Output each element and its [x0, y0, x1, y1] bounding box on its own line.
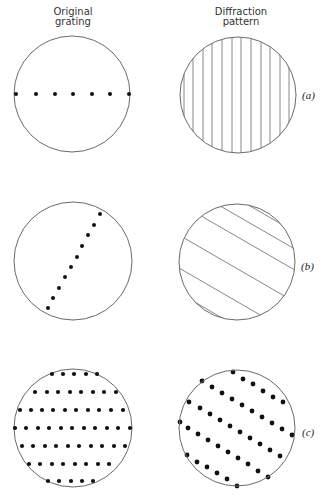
diffraction-pattern-a — [180, 30, 296, 160]
grating-dot — [27, 462, 31, 466]
diffraction-spot — [280, 427, 285, 432]
grating-dot — [31, 444, 35, 448]
grating-dot — [66, 444, 70, 448]
grating-dot — [109, 408, 113, 412]
diffraction-spot — [236, 456, 241, 461]
grating-dot — [18, 408, 22, 412]
grating-dot — [86, 408, 90, 412]
grating-dot — [112, 444, 116, 448]
grating-dot — [51, 408, 55, 412]
diffraction-figure — [0, 0, 326, 500]
grating-dot — [72, 372, 76, 376]
fringe-line — [165, 227, 300, 305]
original-grating-a — [14, 36, 131, 152]
grating-dot — [61, 462, 65, 466]
grating-dot — [102, 390, 106, 394]
diffraction-spot — [205, 465, 210, 470]
grating-dot — [45, 390, 49, 394]
diffraction-spot — [226, 450, 231, 455]
grating-dot — [40, 408, 44, 412]
diffraction-spot — [271, 395, 276, 400]
grating-dot — [47, 426, 51, 430]
grating-dot — [108, 92, 112, 96]
grating-dot — [84, 462, 88, 466]
grating-dot — [97, 408, 101, 412]
diffraction-spot — [268, 448, 273, 453]
diffraction-spot — [258, 442, 263, 447]
fringe-line — [160, 282, 300, 363]
grating-dot — [82, 426, 86, 430]
aperture-circle — [14, 202, 132, 320]
grating-dot — [69, 265, 73, 269]
grating-dot — [123, 444, 127, 448]
grating-dot — [20, 444, 24, 448]
row-label-b: (b) — [301, 260, 314, 272]
diffraction-spot — [225, 477, 230, 482]
diffraction-spot — [238, 430, 243, 435]
grating-dot — [74, 408, 78, 412]
grating-dot — [33, 390, 37, 394]
aperture-circle — [179, 370, 295, 486]
diffraction-spot — [251, 382, 256, 387]
diffraction-spot — [281, 400, 286, 405]
diffraction-spot — [208, 412, 213, 417]
grating-dot — [63, 275, 67, 279]
diffraction-spot — [246, 462, 251, 467]
grating-dot — [121, 408, 125, 412]
grating-dot — [92, 223, 96, 227]
diffraction-spot — [216, 444, 221, 449]
grating-dot — [86, 233, 90, 237]
grating-dot — [63, 408, 67, 412]
diffraction-spot — [230, 397, 235, 402]
grating-dot — [96, 462, 100, 466]
fringe-line — [226, 192, 300, 235]
diffraction-spot — [215, 471, 220, 476]
grating-dot — [43, 444, 47, 448]
grating-dot — [89, 444, 93, 448]
diffraction-spot — [250, 409, 255, 414]
grating-dot — [84, 372, 88, 376]
grating-dot — [56, 390, 60, 394]
diffraction-spot — [256, 469, 261, 474]
aperture-circle — [180, 37, 296, 153]
diffraction-spot — [186, 426, 191, 431]
grating-dot — [75, 255, 79, 259]
grating-dot — [77, 444, 81, 448]
grating-dot — [51, 296, 55, 300]
grating-dot — [128, 426, 132, 430]
grating-dot — [38, 462, 42, 466]
original-grating-b — [14, 202, 132, 320]
diffraction-spot — [248, 436, 253, 441]
grating-dot — [79, 390, 83, 394]
grating-dot — [91, 390, 95, 394]
grating-dot — [46, 479, 50, 483]
fringe-line — [160, 257, 300, 338]
diffraction-spot — [210, 385, 215, 390]
grating-dot — [71, 92, 75, 96]
grating-dot — [80, 479, 84, 483]
diffraction-spot — [187, 400, 192, 405]
diffraction-spot — [278, 454, 283, 459]
grating-dot — [34, 92, 38, 96]
diffraction-spot — [220, 391, 225, 396]
grating-dot — [68, 390, 72, 394]
grating-dot — [70, 426, 74, 430]
diffraction-spot — [240, 403, 245, 408]
grating-dot — [93, 426, 97, 430]
diffraction-spot — [241, 377, 246, 382]
grating-dot — [57, 479, 61, 483]
diffraction-spot — [198, 406, 203, 411]
grating-dot — [24, 426, 28, 430]
diffraction-spot — [290, 433, 295, 438]
grating-dot — [98, 212, 102, 216]
grating-dot — [100, 444, 104, 448]
grating-dot — [57, 286, 61, 290]
diffraction-pattern-c — [178, 370, 295, 489]
diffraction-spot — [228, 424, 233, 429]
grating-dot — [114, 390, 118, 394]
grating-dot — [53, 92, 57, 96]
row-label-c: (c) — [302, 426, 314, 438]
grating-dot — [50, 462, 54, 466]
grating-dot — [13, 426, 17, 430]
diffraction-spot — [196, 432, 201, 437]
